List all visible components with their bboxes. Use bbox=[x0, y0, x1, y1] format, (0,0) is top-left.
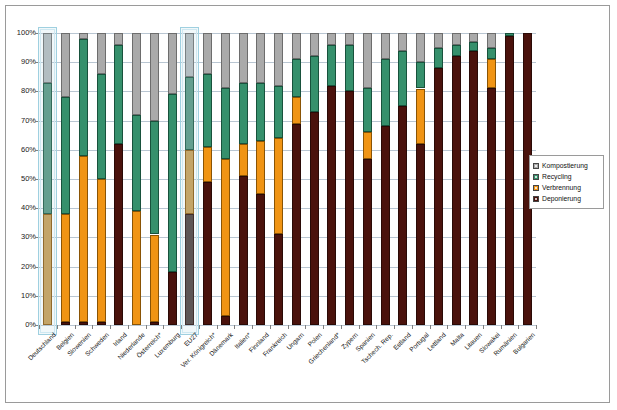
bar-litauen[interactable] bbox=[469, 33, 478, 325]
highlighted-category-box bbox=[180, 27, 199, 335]
bar-segment-kom bbox=[97, 33, 106, 74]
bar-segment-dep bbox=[203, 182, 212, 325]
bar-luxemburg[interactable] bbox=[168, 33, 177, 325]
bar-spanien[interactable] bbox=[363, 33, 372, 325]
bar-sterreich[interactable] bbox=[150, 33, 159, 325]
x-axis-tick-mark bbox=[288, 325, 289, 329]
bar-segment-kom bbox=[274, 33, 283, 86]
bar-malta[interactable] bbox=[452, 33, 461, 325]
bar-segment-ver bbox=[363, 132, 372, 158]
bar-zypern[interactable] bbox=[345, 33, 354, 325]
bar-segment-kom bbox=[487, 33, 496, 48]
x-axis-tick-mark bbox=[181, 325, 182, 329]
bar-irland[interactable] bbox=[114, 33, 123, 325]
x-axis-tick-mark bbox=[163, 325, 164, 329]
bar-estland[interactable] bbox=[398, 33, 407, 325]
x-axis-tick-mark bbox=[146, 325, 147, 329]
bar-polen[interactable] bbox=[310, 33, 319, 325]
x-axis-tick-mark bbox=[270, 325, 271, 329]
bar-d-nemark[interactable] bbox=[221, 33, 230, 325]
bar-segment-kom bbox=[363, 33, 372, 88]
x-axis-tick-mark bbox=[447, 325, 448, 329]
bar-rum-nien[interactable] bbox=[505, 33, 514, 325]
x-axis-tick-mark bbox=[252, 325, 253, 329]
bar-segment-kom bbox=[327, 33, 336, 45]
bar-slowenien[interactable] bbox=[79, 33, 88, 325]
legend-item[interactable]: Deponierung bbox=[533, 193, 600, 204]
bar-schweden[interactable] bbox=[97, 33, 106, 325]
bar-segment-dep bbox=[398, 106, 407, 325]
bar-segment-rec bbox=[239, 83, 248, 144]
bar-segment-dep bbox=[239, 176, 248, 325]
bar-segment-rec bbox=[114, 45, 123, 144]
bar-frankreich[interactable] bbox=[274, 33, 283, 325]
bar-niederlande[interactable] bbox=[132, 33, 141, 325]
bar-ver-k-nigreich[interactable] bbox=[203, 33, 212, 325]
bar-segment-rec bbox=[487, 48, 496, 60]
bar-italien[interactable] bbox=[239, 33, 248, 325]
bar-segment-dep bbox=[310, 112, 319, 325]
bar-segment-dep bbox=[469, 51, 478, 325]
bar-segment-rec bbox=[132, 115, 141, 211]
bar-segment-rec bbox=[168, 94, 177, 272]
bar-segment-rec bbox=[327, 45, 336, 86]
bar-segment-ver bbox=[79, 156, 88, 322]
bar-portugal[interactable] bbox=[416, 33, 425, 325]
y-axis-tick-label: 20% bbox=[2, 263, 36, 271]
x-axis-tick-mark bbox=[305, 325, 306, 329]
bar-segment-dep bbox=[363, 159, 372, 325]
bar-segment-ver bbox=[97, 179, 106, 322]
x-axis-tick-mark bbox=[217, 325, 218, 329]
bar-segment-kom bbox=[132, 33, 141, 115]
bar-ungarn[interactable] bbox=[292, 33, 301, 325]
legend-item[interactable]: Verbrennung bbox=[533, 182, 600, 193]
bar-segment-rec bbox=[452, 45, 461, 57]
bar-segment-dep bbox=[381, 126, 390, 325]
bar-finnland[interactable] bbox=[256, 33, 265, 325]
bar-segment-ver bbox=[416, 89, 425, 144]
bar-segment-kom bbox=[434, 33, 443, 48]
bar-segment-rec bbox=[221, 88, 230, 158]
bar-segment-kom bbox=[398, 33, 407, 51]
bar-segment-rec bbox=[292, 59, 301, 97]
bar-segment-kom bbox=[381, 33, 390, 59]
bar-slowakei[interactable] bbox=[487, 33, 496, 325]
bar-segment-kom bbox=[150, 33, 159, 121]
highlight-box-inner-border bbox=[40, 29, 55, 333]
y-axis-tick-label: 60% bbox=[2, 146, 36, 154]
bar-lettland[interactable] bbox=[434, 33, 443, 325]
bar-segment-rec bbox=[416, 62, 425, 88]
x-axis-tick-mark bbox=[75, 325, 76, 329]
bar-segment-rec bbox=[150, 121, 159, 235]
bar-belgien[interactable] bbox=[61, 33, 70, 325]
bar-segment-ver bbox=[150, 235, 159, 323]
chart-legend: KompostierungRecyclingVerbrennungDeponie… bbox=[529, 155, 604, 209]
bar-segment-rec bbox=[345, 45, 354, 92]
bar-segment-dep bbox=[345, 91, 354, 325]
legend-item[interactable]: Recycling bbox=[533, 171, 600, 182]
bar-segment-kom bbox=[416, 33, 425, 62]
legend-item[interactable]: Kompostierung bbox=[533, 160, 600, 171]
bar-segment-dep bbox=[61, 322, 70, 325]
bar-segment-kom bbox=[221, 33, 230, 88]
bar-segment-dep bbox=[292, 124, 301, 325]
bar-segment-kom bbox=[469, 33, 478, 42]
bar-griechenland[interactable] bbox=[327, 33, 336, 325]
x-axis-tick-mark bbox=[412, 325, 413, 329]
highlighted-category-box bbox=[38, 27, 57, 335]
bar-segment-kom bbox=[452, 33, 461, 45]
bar-segment-dep bbox=[168, 272, 177, 325]
x-axis-tick-mark bbox=[430, 325, 431, 329]
y-axis-tick-label: 90% bbox=[2, 58, 36, 66]
bar-segment-dep bbox=[114, 144, 123, 325]
x-axis-tick-mark bbox=[359, 325, 360, 329]
x-axis-tick-mark bbox=[234, 325, 235, 329]
bar-segment-ver bbox=[274, 138, 283, 234]
bar-segment-rec bbox=[79, 39, 88, 156]
bar-segment-rec bbox=[256, 83, 265, 141]
bar-segment-rec bbox=[97, 74, 106, 179]
legend-swatch-icon bbox=[533, 174, 539, 180]
bar-tschech-rep[interactable] bbox=[381, 33, 390, 325]
bar-segment-ver bbox=[221, 159, 230, 317]
bar-segment-dep bbox=[487, 88, 496, 325]
